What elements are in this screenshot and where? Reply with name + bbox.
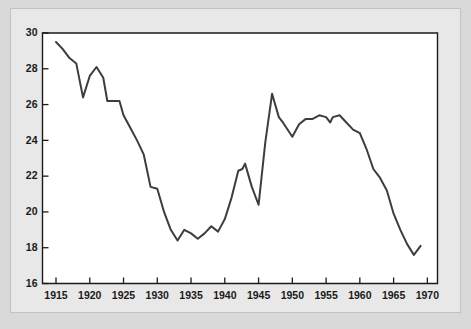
x-tick-label: 1925 [112,289,136,301]
y-tick-label: 24 [26,134,38,146]
chart-figure: 1618202224262830 19151920192519301935194… [0,0,471,329]
x-tick-label: 1935 [179,289,203,301]
x-tick-label: 1930 [146,289,170,301]
y-tick-label: 18 [26,241,38,253]
x-tick-label: 1965 [382,289,406,301]
y-tick-label: 16 [26,277,38,289]
x-axis-tick-labels: 1915192019251930193519401945195019551960… [44,289,439,301]
x-tick-label: 1955 [314,289,338,301]
line-chart: 1618202224262830 19151920192519301935194… [0,0,471,329]
x-tick-label: 1940 [213,289,237,301]
x-tick-label: 1920 [78,289,102,301]
x-tick-label: 1945 [247,289,271,301]
x-tick-label: 1970 [416,289,440,301]
x-tick-label: 1950 [281,289,305,301]
y-tick-label: 28 [26,62,38,74]
y-tick-label: 30 [26,26,38,38]
y-axis-tick-labels: 1618202224262830 [26,26,38,289]
x-tick-label: 1960 [348,289,372,301]
y-tick-label: 20 [26,205,38,217]
y-tick-label: 26 [26,98,38,110]
y-tick-label: 22 [26,169,38,181]
x-tick-label: 1915 [44,289,68,301]
plot-area-background [43,33,438,284]
